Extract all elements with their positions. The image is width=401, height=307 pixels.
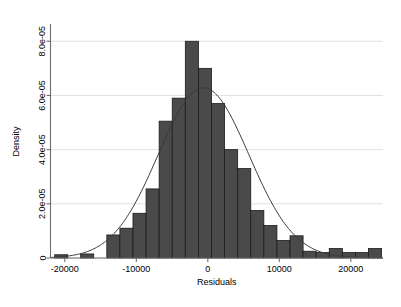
y-tick-label: 6.0e-05 bbox=[38, 80, 48, 111]
y-tick-label: 4.0e-05 bbox=[38, 134, 48, 165]
histogram-bar bbox=[290, 236, 303, 258]
histogram-bar bbox=[225, 150, 238, 258]
histogram-bar bbox=[198, 68, 211, 258]
y-tick-label: 2.0e-05 bbox=[38, 189, 48, 220]
y-tick-label: 8.0e-05 bbox=[38, 26, 48, 57]
histogram-bar bbox=[120, 228, 133, 258]
histogram-figure: -20000-1000001000020000 02.0e-054.0e-056… bbox=[0, 0, 401, 307]
histogram-bar bbox=[238, 169, 251, 258]
residuals-density-histogram: -20000-1000001000020000 02.0e-054.0e-056… bbox=[0, 0, 401, 307]
histogram-bar bbox=[81, 254, 94, 258]
histogram-bar bbox=[251, 211, 264, 258]
x-tick-label: -10000 bbox=[122, 264, 150, 274]
histogram-bar bbox=[277, 240, 290, 258]
histogram-bar bbox=[172, 98, 185, 258]
x-axis-title: Residuals bbox=[197, 277, 237, 287]
y-tick-label: 0 bbox=[38, 255, 48, 260]
histogram-bar bbox=[146, 189, 159, 258]
histogram-bar bbox=[211, 104, 224, 258]
histogram-bar bbox=[264, 225, 277, 258]
x-tick-label: 10000 bbox=[267, 264, 292, 274]
x-tick-label: 0 bbox=[205, 264, 210, 274]
x-tick-label: 20000 bbox=[338, 264, 363, 274]
histogram-bar bbox=[133, 213, 146, 258]
x-tick-label: -20000 bbox=[51, 264, 79, 274]
histogram-bar bbox=[185, 41, 198, 258]
histogram-bar bbox=[303, 251, 316, 258]
y-axis-title: Density bbox=[11, 126, 21, 157]
histogram-bar bbox=[369, 249, 382, 258]
histogram-bar bbox=[159, 121, 172, 258]
